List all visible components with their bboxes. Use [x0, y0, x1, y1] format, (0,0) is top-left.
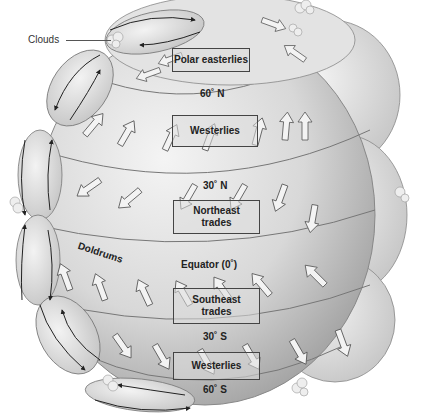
southeast-trades-line2: trades: [201, 306, 231, 318]
westerlies-north-box: Westerlies: [172, 115, 258, 147]
southeast-trades-line1: Southeast: [192, 294, 240, 306]
equator-label: Equator (0˚): [181, 259, 237, 270]
northeast-trades-box: Northeast trades: [173, 200, 260, 234]
latitude-60s-label: 60˚ S: [203, 384, 227, 395]
westerlies-south-box: Westerlies: [173, 352, 260, 380]
atmospheric-circulation-diagram: Clouds Polar easterlies 60˚ N Westerlies…: [0, 0, 425, 418]
polar-easterlies-north-box: Polar easterlies: [172, 48, 250, 72]
latitude-60n-label: 60˚ N: [200, 88, 224, 99]
northeast-trades-line1: Northeast: [193, 205, 240, 217]
polar-easterlies-label: Polar easterlies: [174, 54, 248, 66]
clouds-callout-leader: [66, 40, 111, 41]
clouds-callout-label: Clouds: [28, 34, 59, 45]
westerlies-south-label: Westerlies: [192, 360, 242, 372]
westerlies-north-label: Westerlies: [190, 125, 240, 137]
northeast-trades-line2: trades: [201, 217, 231, 229]
southeast-trades-box: Southeast trades: [173, 288, 260, 324]
latitude-30n-label: 30˚ N: [203, 180, 227, 191]
latitude-30s-label: 30˚ S: [203, 331, 227, 342]
cloud-icon: [292, 378, 308, 396]
